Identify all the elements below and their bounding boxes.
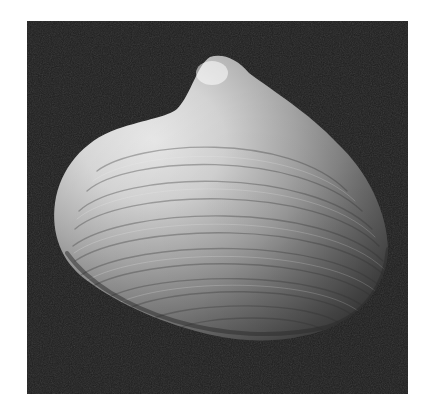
shell-photograph: Photograph of a single clam shell with c… <box>27 21 408 394</box>
clam-shell-illustration <box>27 21 408 394</box>
umbo-highlight <box>196 61 228 85</box>
